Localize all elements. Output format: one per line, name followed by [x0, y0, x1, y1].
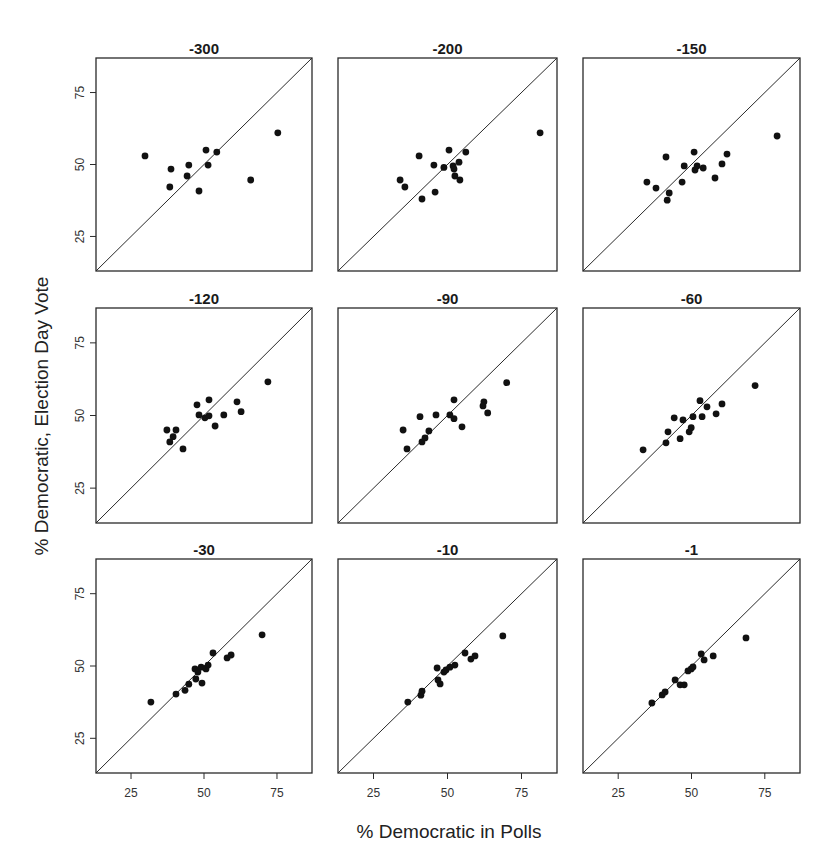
- data-point: [192, 676, 199, 683]
- data-point: [677, 435, 684, 442]
- panel--1: -1255075: [583, 541, 800, 800]
- data-point: [210, 650, 217, 657]
- data-point: [665, 428, 672, 435]
- x-tick-label: 75: [515, 786, 529, 800]
- data-point: [168, 166, 175, 173]
- identity-line: [338, 58, 557, 271]
- data-point: [499, 633, 506, 640]
- data-point: [422, 435, 429, 442]
- data-point: [426, 428, 433, 435]
- data-point: [166, 184, 173, 191]
- data-point: [397, 177, 404, 184]
- data-point: [228, 652, 235, 659]
- identity-line: [96, 58, 312, 271]
- panel--120: -120255075: [73, 290, 312, 523]
- data-point: [459, 423, 466, 430]
- data-point: [173, 427, 180, 434]
- panels-group: -300255075-200-150-120255075-90-60-30255…: [73, 40, 800, 800]
- x-tick-label: 25: [612, 786, 626, 800]
- panel-title: -120: [189, 290, 219, 307]
- data-point: [662, 689, 669, 696]
- panel--200: -200: [338, 40, 557, 271]
- data-point: [681, 163, 688, 170]
- data-point: [719, 401, 726, 408]
- panel--30: -30255075255075: [73, 541, 312, 800]
- data-point: [199, 680, 206, 687]
- data-point: [690, 413, 697, 420]
- data-point: [247, 177, 254, 184]
- data-point: [644, 179, 651, 186]
- data-point: [719, 161, 726, 168]
- x-tick-label: 50: [197, 786, 211, 800]
- data-point: [701, 657, 708, 664]
- data-point: [402, 184, 409, 191]
- data-point: [451, 166, 458, 173]
- x-tick-label: 50: [441, 786, 455, 800]
- data-point: [688, 424, 695, 431]
- data-point: [698, 651, 705, 658]
- data-point: [206, 396, 213, 403]
- y-tick-label: 25: [73, 229, 87, 243]
- panel--150: -150: [583, 40, 800, 271]
- data-point: [640, 446, 647, 453]
- data-point: [404, 699, 411, 706]
- data-point: [680, 417, 687, 424]
- data-point: [416, 153, 423, 160]
- scatter-matrix-figure: -300255075-200-150-120255075-90-60-30255…: [0, 0, 836, 862]
- panel-title: -150: [676, 40, 706, 57]
- data-point: [205, 162, 212, 169]
- data-point: [419, 688, 426, 695]
- data-point: [419, 196, 426, 203]
- panel-title: -10: [437, 541, 459, 558]
- data-point: [774, 133, 781, 140]
- data-point: [503, 379, 510, 386]
- data-point: [164, 427, 171, 434]
- data-point: [437, 681, 444, 688]
- panel-title: -300: [189, 40, 219, 57]
- data-point: [712, 175, 719, 182]
- x-axis-label: % Democratic in Polls: [357, 821, 542, 842]
- panel-title: -30: [193, 541, 215, 558]
- y-tick-label: 50: [73, 659, 87, 673]
- data-point: [234, 398, 241, 405]
- data-point: [451, 415, 458, 422]
- panel-title: -60: [681, 290, 703, 307]
- data-point: [194, 401, 201, 408]
- data-point: [699, 413, 706, 420]
- y-tick-label: 75: [73, 86, 87, 100]
- data-point: [434, 665, 441, 672]
- data-point: [173, 691, 180, 698]
- data-point: [456, 159, 463, 166]
- data-point: [213, 149, 220, 156]
- data-point: [431, 162, 438, 169]
- data-point: [681, 681, 688, 688]
- data-point: [451, 396, 458, 403]
- panel--90: -90: [338, 290, 557, 523]
- data-point: [671, 414, 678, 421]
- data-point: [182, 687, 189, 694]
- data-point: [433, 412, 440, 419]
- identity-line: [583, 58, 800, 271]
- data-point: [743, 635, 750, 642]
- data-point: [166, 439, 173, 446]
- data-point: [185, 681, 192, 688]
- data-point: [203, 147, 210, 154]
- data-point: [400, 427, 407, 434]
- data-point: [212, 423, 219, 430]
- panel-title: -90: [437, 290, 459, 307]
- panel--10: -10255075: [338, 541, 557, 800]
- data-point: [710, 653, 717, 660]
- data-point: [259, 631, 266, 638]
- data-point: [664, 197, 671, 204]
- data-point: [404, 446, 411, 453]
- data-point: [238, 408, 245, 415]
- x-tick-label: 75: [270, 786, 284, 800]
- data-point: [180, 446, 187, 453]
- data-point: [417, 413, 424, 420]
- data-point: [462, 149, 469, 156]
- y-tick-label: 25: [73, 731, 87, 745]
- data-point: [472, 653, 479, 660]
- data-point: [441, 164, 448, 171]
- data-point: [663, 439, 670, 446]
- data-point: [752, 382, 759, 389]
